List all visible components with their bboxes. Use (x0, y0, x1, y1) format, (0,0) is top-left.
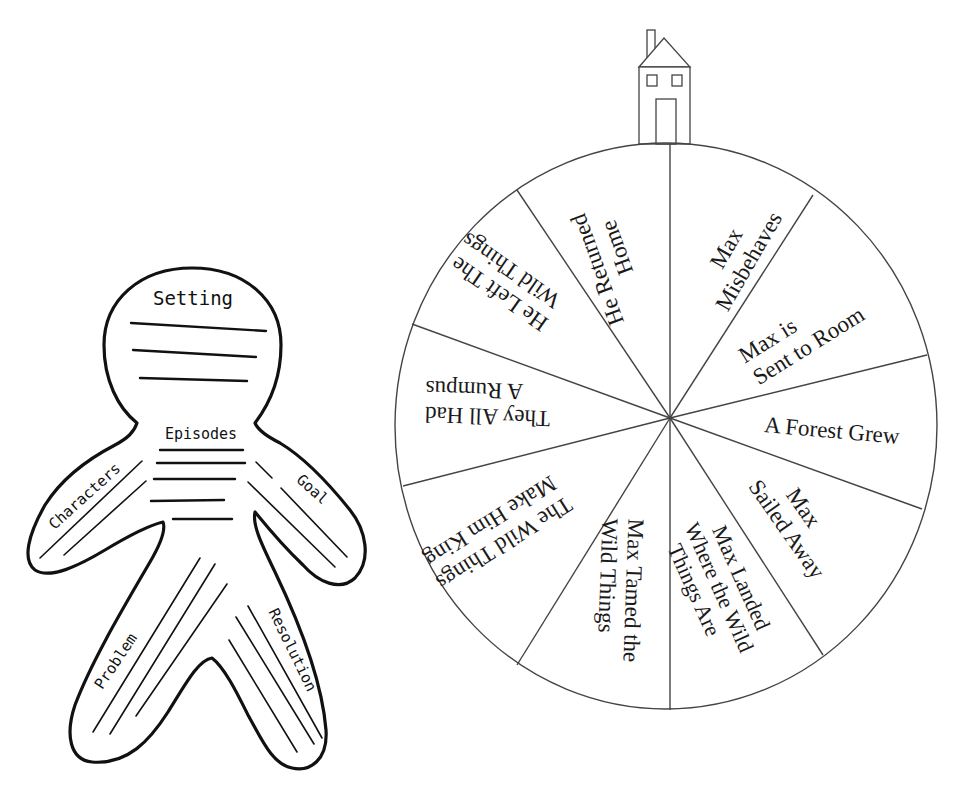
wheel-segment-returned-home: He Returned Home (565, 201, 653, 329)
wheel-segment-left-wild-things: He Left The Wild Things (442, 227, 567, 336)
wheel-segment-sent-to-room: Max is Sent to Room (734, 279, 869, 390)
house-door (656, 99, 676, 144)
story-figure: Setting Episodes Characters Goal (28, 268, 365, 769)
svg-text:Wild Things: Wild Things (594, 518, 623, 633)
wheel-segment-forest-grew: A Forest Grew (763, 412, 900, 449)
svg-text:Sailed Away: Sailed Away (744, 475, 831, 584)
wheel-segment-max-misbehaves: Max Misbehaves (688, 194, 787, 315)
svg-text:Max Tamed the: Max Tamed the (618, 518, 648, 662)
house-icon (639, 30, 690, 144)
wheel-segment-sailed-away: Max Sailed Away (744, 460, 852, 584)
story-wheel: Max Misbehaves Max is Sent to Room A For… (395, 143, 937, 710)
svg-text:A Forest Grew: A Forest Grew (763, 412, 900, 449)
house-window-right (672, 75, 682, 86)
wheel-segment-tamed: Max Tamed the Wild Things (593, 517, 649, 662)
story-organizers: Setting Episodes Characters Goal (0, 0, 964, 793)
wheel-segment-make-him-king: The Wild Things Make Him King (418, 470, 577, 596)
wheel-segment-max-landed: Max Landed Where the Wild Things Are (658, 509, 781, 666)
wheel-segment-rumpus: They All Had A Rumpus (424, 376, 551, 431)
episodes-label: Episodes (165, 425, 237, 443)
svg-text:They All Had: They All Had (424, 402, 550, 431)
setting-label: Setting (153, 287, 233, 309)
house-window-left (647, 75, 657, 86)
svg-text:A Rumpus: A Rumpus (425, 376, 524, 404)
